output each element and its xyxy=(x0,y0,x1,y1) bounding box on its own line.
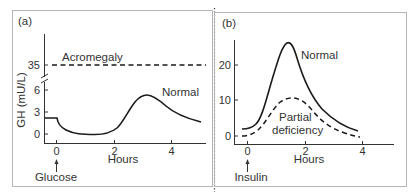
partial-label-line1: Partial xyxy=(279,111,312,123)
y-tick-label: 35 xyxy=(28,59,40,71)
arrow-head-icon xyxy=(55,159,59,164)
glucose-label: Glucose xyxy=(35,171,77,183)
normal-label-b: Normal xyxy=(301,49,338,61)
panel-b: (b) 20 10 0 0 2 4 Hours Insulin Normal P… xyxy=(215,13,407,187)
panel-b-label: (b) xyxy=(222,17,236,29)
x-tick-label: 4 xyxy=(359,145,365,157)
partial-label-line2: deficiency xyxy=(272,124,323,136)
y-tick-label: 10 xyxy=(219,94,231,106)
y-axis-label: GH (mU/L) xyxy=(15,72,27,128)
x-tick-label: 0 xyxy=(244,145,250,157)
normal-label-a: Normal xyxy=(162,86,199,98)
panel-a-label: (a) xyxy=(18,15,32,27)
acromegaly-label: Acromegaly xyxy=(62,51,123,63)
y-tick-label: 3 xyxy=(34,106,40,118)
y-tick-label: 0 xyxy=(225,130,231,142)
y-tick-label: 6 xyxy=(34,84,40,96)
y-tick-label: 20 xyxy=(219,59,231,71)
x-tick-label: 4 xyxy=(168,145,174,157)
x-axis-label: Hours xyxy=(294,153,325,165)
normal-curve-a xyxy=(45,95,201,135)
x-tick-label: 0 xyxy=(53,145,59,157)
insulin-label: Insulin xyxy=(234,171,267,183)
figure: (a) 35 6 3 0 GH (mU/L) 0 2 4 Hours Gluco… xyxy=(0,0,413,196)
x-axis-label: Hours xyxy=(108,153,139,165)
arrow-head-icon xyxy=(246,159,250,164)
panel-a: (a) 35 6 3 0 GH (mU/L) 0 2 4 Hours Gluco… xyxy=(13,11,213,187)
y-tick-label: 0 xyxy=(34,128,40,140)
